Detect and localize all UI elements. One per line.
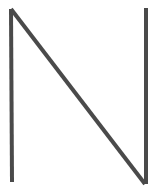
left-vertical-stroke bbox=[11, 9, 12, 182]
drawing-canvas bbox=[0, 0, 159, 196]
letter-n-glyph bbox=[0, 0, 159, 196]
